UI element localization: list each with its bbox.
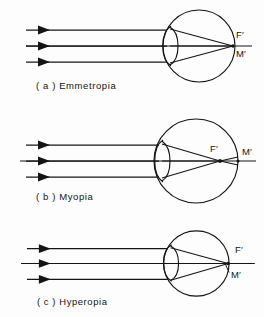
focus-point-marker <box>226 262 230 266</box>
focus-point-marker <box>231 44 234 47</box>
label-focal-point: F′ <box>210 143 218 154</box>
arrowhead-middle <box>38 157 50 166</box>
panel-myopia: F′ M′ ( b ) Myopia <box>0 105 264 210</box>
retina-point-marker <box>237 160 240 163</box>
refracted-ray-lower <box>162 161 220 178</box>
label-focal-point: F′ <box>235 244 243 255</box>
diverging-ray-upper <box>220 157 238 161</box>
refracted-ray-upper <box>170 29 233 46</box>
refracted-ray-lower <box>171 264 228 281</box>
arrowhead-lower <box>39 275 51 284</box>
refracted-ray-upper <box>171 248 228 264</box>
panel-caption-b: ( b ) Myopia <box>36 191 93 202</box>
label-focal-point: F′ <box>236 29 244 40</box>
panel-hyperopia: F′ M′ ( c ) Hyperopia <box>0 211 264 316</box>
label-macula-point: M′ <box>231 269 241 280</box>
label-macula-point: M′ <box>242 146 252 157</box>
arrowhead-middle <box>39 259 51 268</box>
arrowhead-upper <box>38 26 50 35</box>
diverging-ray-lower <box>220 161 238 165</box>
panel-caption-c: ( c ) Hyperopia <box>37 296 108 307</box>
arrowhead-lower <box>38 58 50 67</box>
arrowhead-upper <box>38 141 50 150</box>
panel-emmetropia: F′ M′ ( a ) Emmetropia <box>0 0 264 105</box>
panel-caption-a: ( a ) Emmetropia <box>36 80 116 91</box>
focus-point-marker <box>218 159 222 163</box>
arrowhead-upper <box>39 244 51 253</box>
refracted-ray-lower <box>170 46 233 63</box>
figure-root: F′ M′ ( a ) Emmetropia <box>0 0 264 317</box>
label-macula-point: M′ <box>236 48 246 59</box>
arrowhead-lower <box>38 173 50 182</box>
arrowhead-middle <box>38 42 50 51</box>
